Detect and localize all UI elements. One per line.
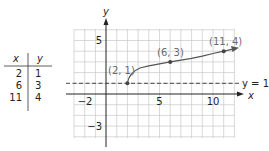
table-cell-y: 3 xyxy=(35,80,41,91)
y-tick-5: 5 xyxy=(96,35,102,46)
point-label-11-4: (11, 4) xyxy=(209,36,242,47)
point-label-2-1: (2, 1) xyxy=(108,65,135,76)
table-header-x: x xyxy=(12,53,19,64)
x-tick-5: 5 xyxy=(156,96,162,107)
table-cell-y: 1 xyxy=(35,68,41,79)
y-axis-label: y xyxy=(102,6,110,17)
x-tick-10: 10 xyxy=(207,96,220,107)
x-axis-label: x xyxy=(247,90,254,101)
table-cell-x: 6 xyxy=(16,80,22,91)
asymptote-label: y = 1 xyxy=(242,78,269,89)
table-cell-y: 4 xyxy=(35,92,41,103)
point-2-1 xyxy=(125,81,129,85)
table-cell-x: 2 xyxy=(16,68,22,79)
xy-table: x y 2 1 6 3 11 4 xyxy=(4,53,52,111)
graph-canvas: x y 2 1 6 3 11 4 xyxy=(0,0,269,151)
table-header-y: y xyxy=(36,53,44,64)
y-axis-arrow-icon xyxy=(104,18,109,25)
point-11-4 xyxy=(222,49,226,53)
table-cell-x: 11 xyxy=(9,92,22,103)
x-tick-neg2: −2 xyxy=(78,96,93,107)
x-axis-arrow-icon xyxy=(237,92,244,97)
point-6-3 xyxy=(168,60,172,64)
y-tick-neg3: −3 xyxy=(87,121,102,132)
point-label-6-3: (6, 3) xyxy=(157,47,184,58)
